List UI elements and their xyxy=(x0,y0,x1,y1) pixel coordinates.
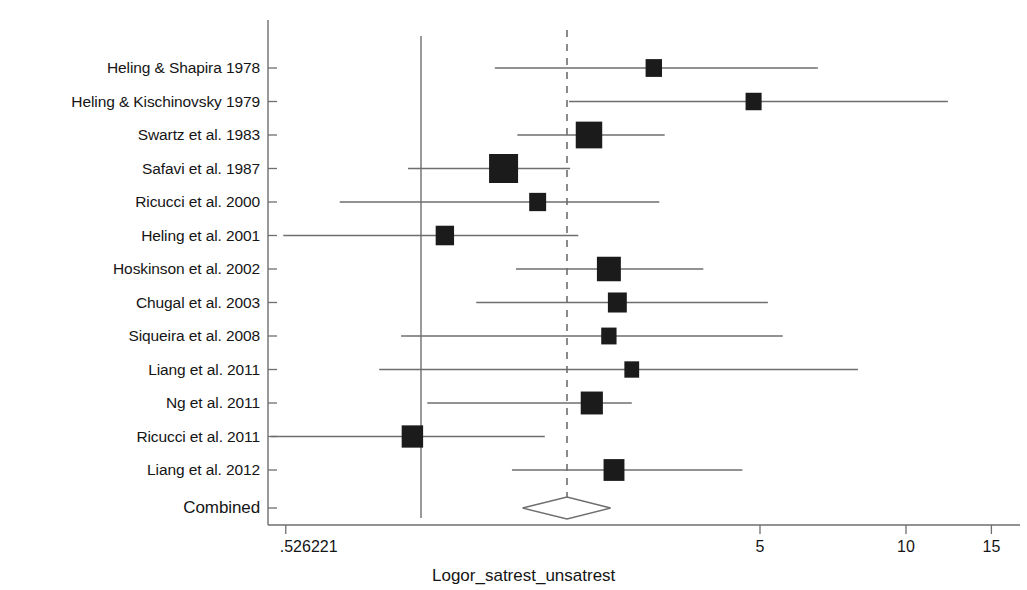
forest-row xyxy=(268,459,742,481)
forest-row xyxy=(268,59,818,77)
forest-row xyxy=(268,392,632,415)
forest-row xyxy=(268,361,858,377)
study-label: Liang et al. 2011 xyxy=(148,362,260,378)
effect-size-marker xyxy=(402,425,423,447)
forest-row xyxy=(268,122,665,149)
forest-row xyxy=(268,93,948,110)
forest-row xyxy=(268,425,545,447)
effect-size-marker xyxy=(608,292,627,312)
effect-size-marker xyxy=(646,59,662,77)
study-label: Heling & Shapira 1978 xyxy=(107,60,260,76)
forest-row xyxy=(268,154,570,183)
x-axis-tick-label: 10 xyxy=(897,539,915,555)
study-label: Ng et al. 2011 xyxy=(166,395,260,411)
x-axis-title: Logor_satrest_unsatrest xyxy=(432,567,615,584)
effect-size-marker xyxy=(597,257,621,282)
effect-size-marker xyxy=(576,122,602,149)
effect-size-marker xyxy=(489,154,518,183)
study-label: Swartz et al. 1983 xyxy=(138,127,260,143)
effect-size-marker xyxy=(529,193,546,211)
forest-row xyxy=(268,328,783,345)
effect-size-marker xyxy=(436,226,454,246)
study-label: Safavi et al. 1987 xyxy=(142,161,260,177)
study-label: Heling et al. 2001 xyxy=(141,228,260,244)
forest-row xyxy=(268,193,659,211)
forest-row xyxy=(268,292,768,312)
effect-size-marker xyxy=(604,459,625,481)
study-label: Hoskinson et al. 2002 xyxy=(113,261,260,277)
x-axis-tick-label: 5 xyxy=(756,539,765,555)
combined-diamond xyxy=(523,497,611,519)
study-label: Ricucci et al. 2011 xyxy=(136,429,260,445)
effect-size-marker xyxy=(601,328,616,345)
effect-size-marker xyxy=(746,93,762,110)
forest-row xyxy=(268,257,703,282)
effect-size-marker xyxy=(624,361,639,377)
study-label: Siqueira et al. 2008 xyxy=(128,328,260,344)
forest-row xyxy=(268,226,578,246)
x-axis-tick-label: .526221 xyxy=(280,539,338,555)
combined-label: Combined xyxy=(183,499,260,516)
study-label: Ricucci et al. 2000 xyxy=(135,194,260,210)
x-axis-tick-label: 15 xyxy=(982,539,1000,555)
forest-plot-figure: Heling & Shapira 1978Heling & Kischinovs… xyxy=(0,0,1027,590)
effect-size-marker xyxy=(581,392,603,415)
study-label: Chugal et al. 2003 xyxy=(136,295,260,311)
study-label: Liang et al. 2012 xyxy=(147,462,260,478)
study-label: Heling & Kischinovsky 1979 xyxy=(71,94,260,110)
